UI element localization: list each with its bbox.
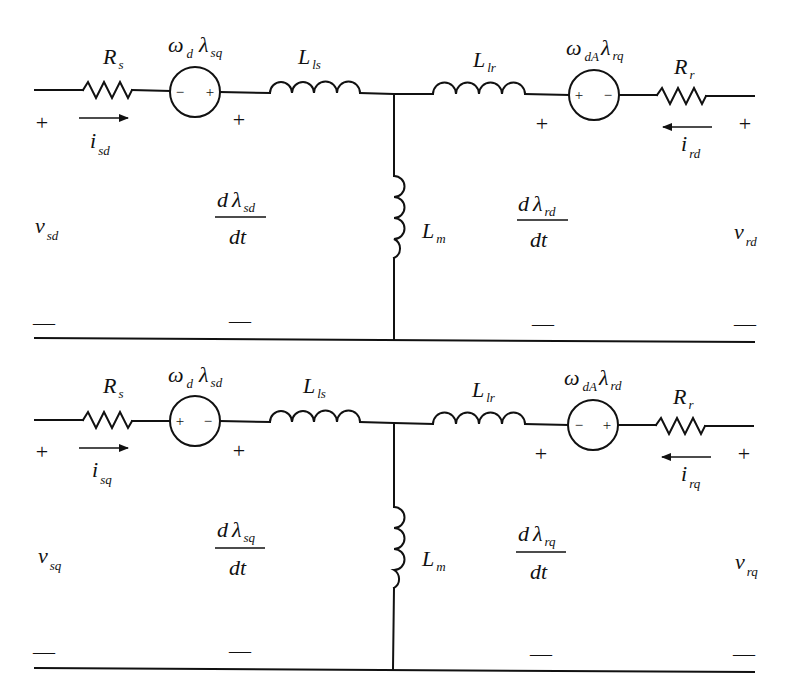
stator-source-label: ωdλsq — [168, 32, 223, 61]
rotor-voltage-label: vrq — [735, 549, 758, 579]
rotor-emf-fraction: dλrd dt — [517, 191, 568, 252]
stator-resistor-label: Rs — [102, 44, 124, 72]
stator-resistor-label: Rs — [102, 373, 124, 401]
stator-voltage-label: vsq — [38, 543, 62, 573]
rotor-resistor-label: Rr — [673, 54, 695, 82]
plus-sign: + — [535, 441, 547, 466]
rotor-source-label: ωdAλrd — [564, 365, 622, 394]
svg-text:dλsq: dλsq — [217, 517, 256, 545]
source-left-sign: − — [575, 417, 583, 433]
stator-emf-fraction: dλsq dt — [215, 517, 265, 580]
svg-text:dt: dt — [530, 227, 548, 252]
stator-leakage-label: Lls — [302, 373, 326, 401]
return-rail — [35, 668, 754, 672]
magnetizing-label: Lm — [421, 546, 446, 574]
minus-sign: — — [228, 308, 252, 333]
source-left-sign: + — [176, 413, 184, 429]
magnetizing-label: Lm — [421, 218, 446, 246]
stator-current-label: isq — [92, 457, 112, 487]
plus-sign: + — [36, 110, 48, 135]
svg-text:dt: dt — [229, 555, 247, 580]
wire — [393, 588, 394, 669]
minus-sign: — — [32, 639, 56, 664]
minus-sign: — — [732, 641, 756, 666]
rotor-resistor-icon — [656, 418, 705, 434]
wire — [525, 94, 569, 95]
wire — [132, 90, 170, 91]
minus-sign: — — [32, 310, 56, 335]
stator-resistor-icon — [83, 82, 132, 98]
minus-sign: — — [228, 638, 252, 663]
rotor-leakage-label: Llr — [472, 47, 497, 75]
plus-sign: + — [233, 107, 245, 132]
rotor-voltage-label: vrd — [734, 219, 757, 249]
stator-emf-fraction: dλsd dt — [215, 187, 266, 249]
dq-equivalent-circuit-diagram: − + + − + + + + — — — — Rs — [0, 0, 802, 699]
stator-resistor-icon — [83, 412, 132, 428]
svg-text:dλsd: dλsd — [217, 187, 256, 215]
stator-leakage-label: Lls — [297, 44, 321, 72]
source-right-sign: + — [206, 84, 214, 100]
rotor-resistor-icon — [657, 88, 706, 104]
wire — [220, 421, 270, 422]
stator-current-label: isd — [90, 128, 110, 158]
rotor-leakage-inductor-icon — [433, 413, 525, 424]
minus-sign: — — [529, 641, 553, 666]
rotor-resistor-label: Rr — [672, 384, 694, 412]
d-axis-circuit: − + + − + + + + — — — — Rs — [32, 32, 757, 342]
rotor-source-label: ωdAλrq — [566, 35, 624, 64]
rotor-leakage-inductor-icon — [433, 82, 525, 94]
rotor-leakage-label: Llr — [471, 377, 496, 405]
plus-sign: + — [738, 441, 750, 466]
wire — [220, 92, 270, 93]
stator-leakage-inductor-icon — [270, 411, 360, 423]
wire — [360, 422, 433, 424]
stator-voltage-label: vsd — [35, 213, 59, 243]
rotor-emf-fraction: dλrq dt — [516, 521, 566, 584]
stator-source-label: ωdλsd — [168, 362, 223, 391]
svg-text:dλrd: dλrd — [518, 191, 556, 219]
plus-sign: + — [536, 111, 548, 136]
svg-text:dt: dt — [530, 559, 548, 584]
svg-text:dλrq: dλrq — [518, 521, 556, 549]
stator-leakage-inductor-icon — [270, 82, 360, 94]
source-right-sign: + — [603, 417, 611, 433]
rotor-current-label: ird — [681, 131, 701, 161]
q-axis-circuit: + − − + + + + + — — — — Rs ωdλsd Lls Llr… — [32, 362, 758, 672]
magnetizing-inductor-icon — [394, 507, 405, 588]
magnetizing-inductor-icon — [394, 176, 405, 258]
minus-sign: — — [531, 311, 555, 336]
source-right-sign: − — [604, 87, 612, 103]
wire — [360, 93, 433, 94]
minus-sign: — — [733, 311, 757, 336]
svg-text:dt: dt — [229, 224, 247, 249]
rotor-current-label: irq — [681, 461, 701, 491]
source-right-sign: − — [204, 413, 212, 429]
plus-sign: + — [233, 438, 245, 463]
plus-sign: + — [36, 439, 48, 464]
plus-sign: + — [739, 111, 751, 136]
source-left-sign: + — [575, 87, 583, 103]
source-left-sign: − — [176, 84, 184, 100]
wire — [525, 424, 568, 425]
